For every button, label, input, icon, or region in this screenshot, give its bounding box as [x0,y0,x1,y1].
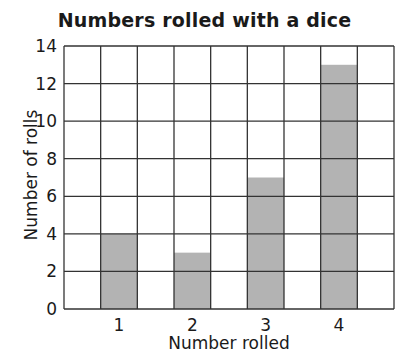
x-tick-label: 3 [260,315,271,335]
bar-2 [174,253,211,309]
y-tick-label: 8 [46,149,57,169]
y-tick-label: 2 [46,261,57,281]
y-tick-label: 0 [46,299,57,319]
x-tick-label: 2 [187,315,198,335]
y-tick-label: 10 [35,111,57,131]
bar-chart: 024681012141234 [0,0,409,358]
bar-3 [247,178,284,310]
y-tick-label: 14 [35,36,57,56]
y-tick-label: 6 [46,186,57,206]
y-tick-label: 12 [35,74,57,94]
x-tick-label: 1 [114,315,125,335]
bar-4 [321,65,358,309]
x-tick-label: 4 [334,315,345,335]
y-tick-label: 4 [46,224,57,244]
